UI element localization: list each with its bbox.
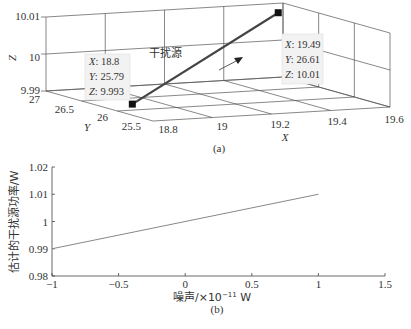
datatip-start: X: 18.8 Y: 25.79 Z: 9.993 — [85, 54, 130, 100]
datatip-z: Z: 10.01 — [285, 69, 320, 80]
y-tick: 25.5 — [122, 120, 142, 132]
data-point-start[interactable] — [129, 101, 136, 108]
x-tick: 19.6 — [384, 113, 404, 125]
annotation-interference-source: 干扰源 — [149, 46, 182, 60]
x-tick-label: 0 — [182, 278, 188, 290]
floor-gridline-x — [165, 84, 272, 114]
z-tick: 10.01 — [15, 10, 40, 22]
series-line-estimated-power — [52, 194, 318, 249]
y-tick-label: 0.98 — [29, 270, 49, 282]
y-axis-label: 估计的干扰源功率/W — [7, 171, 21, 274]
x-tick-label: 0.5 — [245, 278, 259, 290]
datatip-z: Z: 9.993 — [89, 86, 124, 97]
panel-a-3d-plot: 10.01 10 9.99 Z 27 26.5 26 25.5 Y 18.8 1… — [6, 3, 404, 155]
y-axis-label: Y — [84, 121, 92, 133]
x-tick: 19.4 — [327, 115, 347, 127]
arrow-head-icon — [234, 57, 243, 64]
y-tick-label: 0.99 — [29, 243, 49, 255]
x-tick-label: 1 — [316, 278, 322, 290]
panel-label-a: (a) — [213, 142, 226, 155]
x-tick: 18.8 — [158, 123, 178, 135]
z-tick: 10 — [29, 51, 41, 63]
y-tick: 26.5 — [55, 103, 75, 115]
figure: 10.01 10 9.99 Z 27 26.5 26 25.5 Y 18.8 1… — [0, 0, 411, 329]
y-tick: 26 — [97, 111, 109, 123]
y-tick-label: 1.02 — [29, 161, 48, 173]
datatip-y: Y: 26.61 — [285, 54, 320, 65]
x-axis-label: 噪声/×10−11 W — [173, 290, 251, 304]
x-tick: 19.2 — [270, 118, 289, 130]
x-tick-label: 1.5 — [378, 278, 392, 290]
floor-gridline-y — [117, 97, 354, 111]
data-point-end[interactable] — [275, 9, 282, 16]
side-gridline-z — [283, 3, 390, 33]
x-tick-label: −0.5 — [109, 278, 129, 290]
x-tick: 19 — [217, 120, 229, 132]
datatip-x: X: 18.8 — [88, 56, 119, 67]
y-tick-label: 1 — [43, 216, 49, 228]
panel-label-b: (b) — [211, 303, 224, 316]
datatip-x: X: 19.49 — [284, 39, 321, 50]
y-ticks: 0.980.9911.011.02 — [29, 161, 55, 282]
floor-gridline-x — [224, 81, 331, 111]
y-tick-label: 1.01 — [29, 188, 48, 200]
x-ticks: −1−0.500.511.5 — [46, 273, 392, 290]
datatip-y: Y: 25.79 — [89, 71, 124, 82]
z-axis-label: Z — [6, 54, 18, 61]
datatip-end: X: 19.49 Y: 26.61 Z: 10.01 — [282, 34, 323, 84]
axes-frame — [52, 167, 385, 276]
y-tick: 27 — [29, 93, 41, 105]
panel-b-line-plot: −1−0.500.511.5 0.980.9911.011.02 估计的干扰源功… — [7, 161, 392, 316]
x-axis-label: X — [281, 131, 290, 143]
